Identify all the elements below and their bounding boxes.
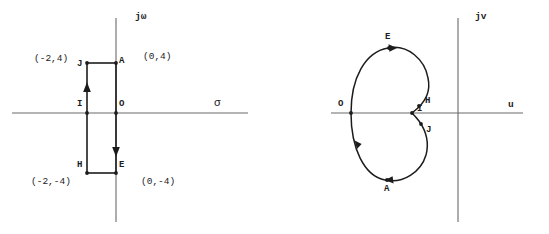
s-plane-contour-path xyxy=(87,63,116,173)
s-plane-vertex-dots xyxy=(85,61,118,175)
point-dot-E xyxy=(387,46,391,50)
vertex-dot-J xyxy=(85,61,89,65)
g-plane-direction-arrows xyxy=(355,44,397,183)
vertex-dot-A xyxy=(114,61,118,65)
vertex-dot-H xyxy=(85,171,89,175)
vertex-dot-I xyxy=(85,111,89,115)
s-plane-point-label-J: J xyxy=(77,59,82,69)
s-plane-coord-H: (-2,-4) xyxy=(31,177,71,187)
s-plane-canvas xyxy=(0,0,275,234)
s-plane-point-label-H: H xyxy=(77,160,82,170)
direction-arrow-down xyxy=(112,147,120,157)
vertex-dot-O xyxy=(114,111,118,115)
g-plane-diagram: jv u E H I J A O xyxy=(275,0,549,234)
g-plane-canvas xyxy=(275,0,549,234)
s-plane-origin-label: O xyxy=(119,99,124,109)
s-plane-coord-J: (-2,4) xyxy=(34,54,68,64)
s-plane-horizontal-axis-label: σ xyxy=(214,98,221,108)
point-dot-I xyxy=(410,111,414,115)
s-plane-coord-E: (0,-4) xyxy=(141,177,175,187)
point-dot-O xyxy=(349,111,353,115)
g-plane-point-dots xyxy=(349,46,423,182)
g-plane-point-label-E: E xyxy=(385,32,390,42)
s-plane-coord-A: (0,4) xyxy=(143,52,172,62)
g-plane-point-label-I: I xyxy=(417,104,422,114)
g-plane-vertical-axis-label: jv xyxy=(475,12,486,22)
s-plane-point-label-A: A xyxy=(119,56,124,66)
vertex-dot-E xyxy=(114,171,118,175)
point-dot-A xyxy=(385,178,389,182)
s-plane-point-label-I: I xyxy=(77,99,82,109)
point-dot-J xyxy=(419,122,423,126)
g-plane-horizontal-axis-label: u xyxy=(508,100,514,110)
figure-root: jω σ A J I H E O (-2,4) (0,4) (-2,-4) (0… xyxy=(0,0,549,234)
direction-arrow-up xyxy=(83,82,91,92)
s-plane-point-label-E: E xyxy=(119,160,124,170)
g-plane-image-curve xyxy=(351,47,429,180)
g-plane-origin-label: O xyxy=(338,99,343,109)
s-plane-diagram: jω σ A J I H E O (-2,4) (0,4) (-2,-4) (0… xyxy=(0,0,275,234)
g-plane-point-label-H: H xyxy=(425,96,430,106)
s-plane-vertical-axis-label: jω xyxy=(135,12,146,22)
g-plane-point-label-J: J xyxy=(426,125,431,135)
g-plane-point-label-A: A xyxy=(384,184,389,194)
